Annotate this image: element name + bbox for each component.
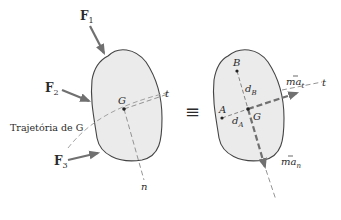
tangential-inertia-label: mat — [286, 76, 304, 90]
force-label-f1: F1 — [80, 9, 94, 25]
point-b-label: B — [232, 57, 240, 68]
force-label-f3: F3 — [54, 154, 68, 170]
rigid-body-kinetics-diagram: F1 F2 F3 G Trajetória de G t n ≡ B A G d… — [0, 0, 341, 220]
center-label-left: G — [118, 95, 126, 106]
point-a-label: A — [218, 104, 226, 115]
force-arrow-f1 — [90, 26, 104, 53]
force-arrow-f3 — [68, 153, 98, 160]
force-label-f2: F2 — [45, 81, 59, 97]
normal-line-right — [266, 170, 276, 200]
point-a — [220, 116, 223, 119]
tangent-label-left: t — [165, 88, 170, 99]
trajectory-label: Trajetória de G — [10, 122, 83, 133]
equivalence-symbol: ≡ — [185, 101, 200, 122]
point-b — [235, 69, 238, 72]
tangent-label-right: t — [322, 77, 327, 88]
left-free-body-diagram — [62, 26, 170, 180]
normal-inertia-label: man — [281, 156, 301, 170]
normal-label-left: n — [141, 181, 147, 192]
center-of-mass-right — [246, 107, 250, 111]
force-arrow-f2 — [62, 90, 89, 101]
center-of-mass-left — [122, 107, 126, 111]
right-kinetic-diagram — [213, 50, 322, 200]
center-label-right: G — [253, 111, 261, 122]
